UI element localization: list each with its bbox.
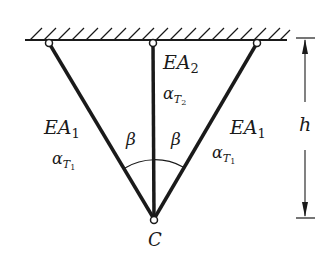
arrow-down-icon [302, 202, 308, 217]
label-beta-left: β [125, 129, 136, 149]
pin-right [254, 40, 261, 47]
label-ea2: EA2 [162, 51, 199, 76]
label-alpha-t2: αT2 [163, 84, 186, 107]
label-ea1-right: EA1 [229, 116, 266, 141]
label-ea1-left: EA1 [43, 116, 80, 141]
ceiling-hatch [30, 28, 290, 40]
truss-diagram: EA2 αT2 EA1 αT1 EA1 αT1 β β C h [0, 0, 334, 262]
label-node-c: C [148, 229, 162, 250]
pin-middle [150, 40, 157, 47]
bar-middle [153, 43, 154, 219]
label-alpha-t1-right: αT1 [212, 143, 235, 166]
label-alpha-t1-left: αT1 [52, 149, 75, 172]
label-h: h [299, 113, 311, 135]
pin-node-c [151, 217, 158, 224]
arrow-up-icon [302, 39, 308, 54]
pin-left [46, 40, 53, 47]
label-beta-right: β [170, 129, 181, 149]
